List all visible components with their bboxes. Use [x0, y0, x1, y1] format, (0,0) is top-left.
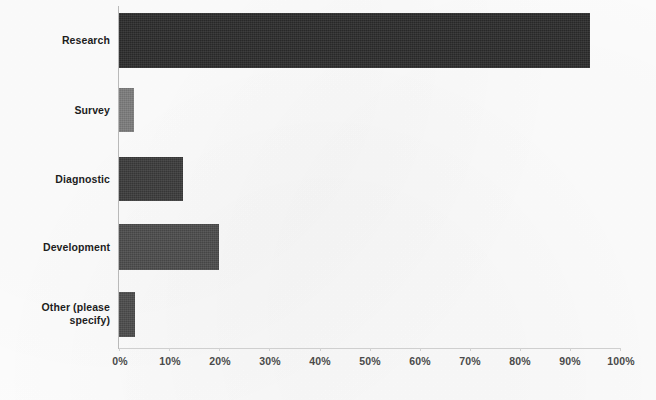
x-axis-tick-label: 10%: [159, 355, 181, 367]
y-axis-label-research: Research: [0, 34, 110, 47]
x-axis-labels: 0% 10% 20% 30% 40% 50% 60% 70% 80% 90% 1…: [0, 355, 656, 377]
x-axis-tick-label: 30%: [259, 355, 281, 367]
bar-other: [119, 292, 135, 337]
y-axis-labels: Research Survey Diagnostic Development O…: [0, 0, 110, 348]
x-axis-tick-label: 60%: [409, 355, 431, 367]
bar-research: [119, 13, 590, 68]
x-tick: [470, 348, 471, 351]
y-axis-label-line: Survey: [74, 104, 110, 116]
x-tick: [119, 348, 120, 351]
x-tick: [269, 348, 270, 351]
y-axis-label-line: Other (please: [42, 301, 110, 313]
y-axis-label-survey: Survey: [0, 104, 110, 117]
bar-survey: [119, 88, 134, 132]
x-axis-tick-label: 70%: [459, 355, 481, 367]
x-axis-tick-label: 20%: [209, 355, 231, 367]
x-tick: [370, 348, 371, 351]
bar-diagnostic: [119, 157, 183, 201]
y-axis-label-development: Development: [0, 241, 110, 254]
x-axis-tick-label: 80%: [509, 355, 531, 367]
x-tick: [520, 348, 521, 351]
y-axis-label-line: Diagnostic: [55, 173, 110, 185]
x-tick: [169, 348, 170, 351]
y-axis-label-line: Research: [62, 34, 110, 46]
y-axis-label-line: specify): [70, 314, 110, 326]
x-axis-tick-label: 100%: [607, 355, 635, 367]
bar-chart: Research Survey Diagnostic Development O…: [0, 0, 656, 400]
x-axis-tick-label: 0%: [112, 355, 128, 367]
y-axis-label-line: Development: [43, 241, 110, 253]
x-axis-tick-label: 40%: [309, 355, 331, 367]
x-tick: [219, 348, 220, 351]
x-tick: [320, 348, 321, 351]
y-axis-label-other: Other (please specify): [0, 301, 110, 327]
x-tick: [620, 348, 621, 351]
y-axis-label-diagnostic: Diagnostic: [0, 173, 110, 186]
x-axis-tick-label: 90%: [559, 355, 581, 367]
x-tick: [570, 348, 571, 351]
bar-development: [119, 224, 219, 270]
x-tick: [420, 348, 421, 351]
x-axis-tick-label: 50%: [359, 355, 381, 367]
plot-area: [119, 0, 620, 348]
